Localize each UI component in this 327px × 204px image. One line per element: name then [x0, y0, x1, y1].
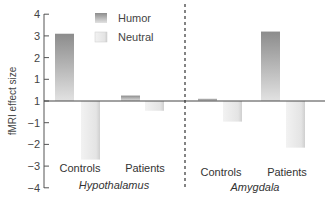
- category-label-hypothalamus-controls: Controls: [60, 162, 101, 174]
- category-label-hypothalamus-patients: Patients: [125, 162, 165, 174]
- bar-neutral: [223, 101, 242, 122]
- y-tick-label: −3: [27, 160, 40, 172]
- y-tick-label: 1: [34, 73, 40, 85]
- y-tick-label: 4: [34, 8, 40, 20]
- bar-humor: [55, 34, 74, 101]
- y-tick-label: −2: [27, 138, 40, 150]
- y-tick-label: 2: [34, 52, 40, 64]
- bar-neutral: [145, 101, 164, 111]
- bars: [55, 32, 305, 160]
- bar-neutral: [81, 101, 100, 160]
- y-tick-label: −4: [27, 182, 40, 194]
- bar-humor: [261, 32, 280, 101]
- legend: Humor Neutral: [95, 12, 153, 43]
- category-label-amygdala-controls: Controls: [201, 166, 242, 178]
- y-axis-label: fMRI effect size: [7, 66, 18, 135]
- y-tick-label: 1: [34, 95, 40, 107]
- bar-chart: 43211−1−2−3−4 fMRI effect size Humor Neu…: [0, 0, 327, 204]
- bar-humor: [121, 96, 140, 101]
- y-tick-label: 3: [34, 30, 40, 42]
- bar-neutral: [286, 101, 305, 148]
- legend-swatch-humor: [95, 13, 107, 23]
- legend-label-neutral: Neutral: [118, 31, 153, 43]
- category-label-amygdala-patients: Patients: [267, 166, 307, 178]
- legend-swatch-neutral: [95, 32, 107, 42]
- group-label-amygdala: Amygdala: [230, 181, 280, 193]
- group-label-hypothalamus: Hypothalamus: [79, 179, 150, 191]
- y-tick-label: −1: [27, 117, 40, 129]
- legend-label-humor: Humor: [118, 12, 151, 24]
